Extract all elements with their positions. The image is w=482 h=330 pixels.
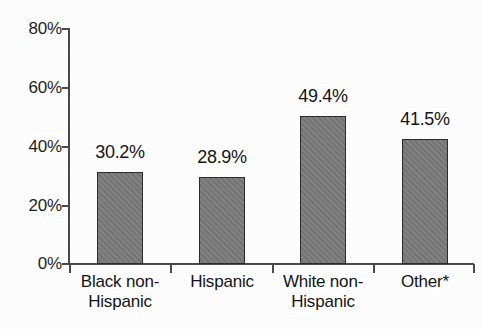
y-tick-60 — [62, 87, 70, 89]
x-category-label-black-non-hispanic: Black non- Hispanic — [70, 272, 170, 312]
bar-value-black-non-hispanic: 30.2% — [80, 143, 160, 161]
y-tick-label-60: 60% — [6, 79, 62, 96]
y-tick-40 — [62, 146, 70, 148]
y-tick-label-40: 40% — [6, 138, 62, 155]
x-category-label-other: Other* — [375, 272, 475, 292]
x-category-label-white-non-hispanic: White non- Hispanic — [273, 272, 373, 312]
bar-black-non-hispanic — [97, 172, 143, 264]
y-tick-20 — [62, 205, 70, 207]
y-axis-labels: 80% 60% 40% 20% 0% — [0, 0, 62, 330]
y-tick-label-80: 80% — [6, 20, 62, 37]
bar-value-white-non-hispanic: 49.4% — [283, 87, 363, 105]
y-tick-label-0: 0% — [6, 255, 62, 272]
bar-hispanic — [199, 177, 245, 264]
x-category-label-hispanic: Hispanic — [172, 272, 272, 292]
y-tick-label-20: 20% — [6, 197, 62, 214]
bar-other — [402, 139, 448, 264]
y-tick-80 — [62, 28, 70, 30]
bar-chart: 80% 60% 40% 20% 0% 30.2% 28.9% 49.4% 41.… — [0, 0, 482, 330]
bar-white-non-hispanic — [300, 116, 346, 264]
bar-value-hispanic: 28.9% — [182, 148, 262, 166]
bar-value-other: 41.5% — [385, 110, 465, 128]
